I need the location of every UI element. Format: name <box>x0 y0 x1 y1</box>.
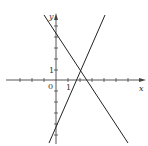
increasing-line <box>49 15 105 143</box>
origin-label: 0 <box>48 82 53 91</box>
y-axis-arrow-icon <box>54 13 58 20</box>
x-axis-arrow-icon <box>139 78 146 82</box>
y-unit-label: 1 <box>49 66 54 75</box>
x-axis-label: x <box>139 84 144 93</box>
coordinate-graph: y x 0 1 1 <box>0 0 148 146</box>
x-unit-label: 1 <box>66 83 71 92</box>
y-axis-label: y <box>48 12 54 21</box>
